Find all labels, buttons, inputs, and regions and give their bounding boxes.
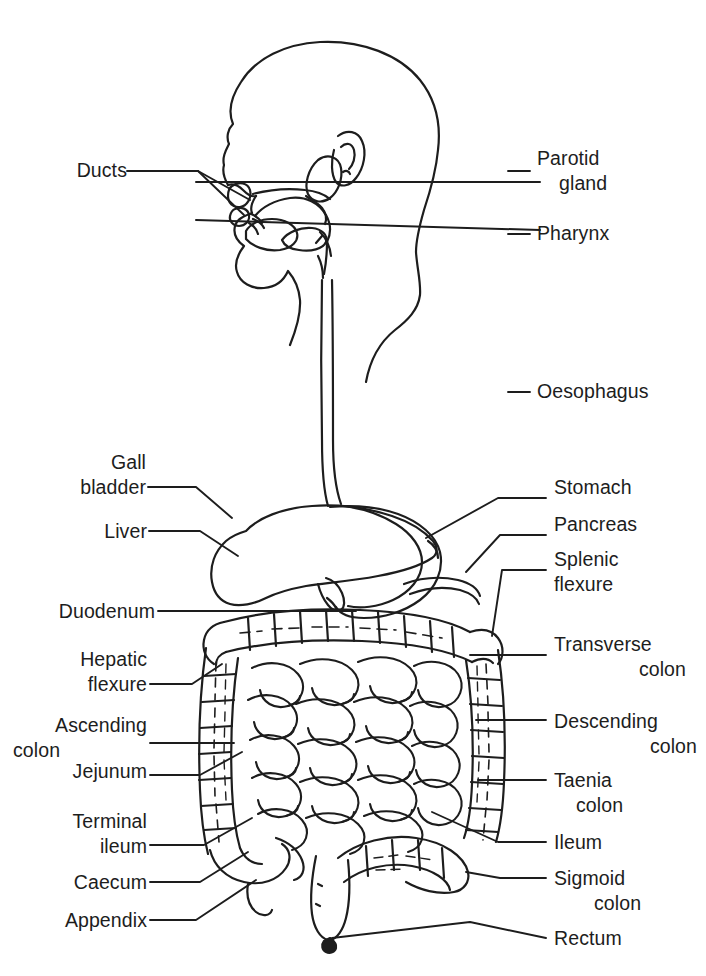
- label-rectum[interactable]: Rectum: [554, 926, 706, 951]
- label-caecum[interactable]: Caecum: [0, 870, 147, 895]
- label-oesophagus[interactable]: Oesophagus: [537, 379, 702, 404]
- label-liver-line1: Liver: [104, 520, 147, 542]
- label-ducts-line1: Ducts: [77, 159, 127, 181]
- label-terminal-ileum[interactable]: Terminalileum: [0, 809, 147, 859]
- label-terminal-ileum-line1: Terminal: [73, 810, 148, 832]
- ascending-colon-shape: [199, 648, 240, 854]
- appendix-shape: [247, 884, 272, 915]
- label-taenia-colon-line2: colon: [554, 793, 706, 818]
- caecum-shape: [210, 844, 289, 883]
- small-intestine-coils: [248, 657, 462, 854]
- label-descending-colon[interactable]: Descendingcolon: [554, 709, 706, 759]
- label-transverse-colon-line2: colon: [554, 657, 706, 682]
- leader-hepatic-flexure: [150, 664, 222, 684]
- label-hepatic-flexure-line2: flexure: [88, 673, 147, 695]
- leader-ileum: [432, 812, 546, 842]
- digestive-system-figure: Ducts Gallbladder Liver Duodenum Hepatic…: [0, 0, 706, 976]
- leader-stomach: [426, 498, 546, 538]
- label-hepatic-flexure[interactable]: Hepaticflexure: [0, 647, 147, 697]
- label-splenic-flexure-line1: Splenic: [554, 547, 706, 572]
- transverse-colon-shape: [224, 610, 472, 663]
- label-appendix[interactable]: Appendix: [0, 908, 147, 933]
- leader-gall-bladder: [148, 487, 232, 518]
- label-pancreas[interactable]: Pancreas: [554, 512, 706, 537]
- rectum-shape: [311, 856, 349, 953]
- label-parotid-gland-line2: gland: [537, 171, 702, 196]
- descending-colon-shape: [464, 650, 505, 842]
- label-oesophagus-line1: Oesophagus: [537, 380, 649, 402]
- label-hepatic-flexure-line1: Hepatic: [80, 648, 147, 670]
- label-ascending-colon[interactable]: Ascendingcolon: [0, 713, 147, 763]
- label-ducts[interactable]: Ducts: [0, 158, 127, 183]
- label-transverse-colon-line1: Transverse: [554, 632, 706, 657]
- label-transverse-colon[interactable]: Transversecolon: [554, 632, 706, 682]
- label-liver[interactable]: Liver: [0, 519, 147, 544]
- label-gall-bladder[interactable]: Gallbladder: [0, 450, 146, 500]
- label-pharynx[interactable]: Pharynx: [537, 221, 702, 246]
- label-descending-colon-line2: colon: [554, 734, 706, 759]
- label-jejunum[interactable]: Jejunum: [0, 759, 147, 784]
- label-duodenum-line1: Duodenum: [59, 600, 155, 622]
- leader-lines-right: [332, 171, 546, 938]
- label-stomach-line1: Stomach: [554, 476, 632, 498]
- label-rectum-line1: Rectum: [554, 927, 622, 949]
- label-descending-colon-line1: Descending: [554, 709, 706, 734]
- hepatic-flexure-shape: [203, 622, 226, 665]
- label-caecum-line1: Caecum: [74, 871, 147, 893]
- bottom-cropped-caption: [0, 963, 706, 976]
- label-splenic-flexure[interactable]: Splenicflexure: [554, 547, 706, 597]
- label-sigmoid-colon-line2: colon: [554, 891, 706, 916]
- leader-sigmoid-colon: [466, 872, 546, 878]
- label-duodenum[interactable]: Duodenum: [0, 599, 155, 624]
- label-gall-bladder-line1: Gall: [111, 451, 146, 473]
- label-ileum-line1: Ileum: [554, 831, 602, 853]
- label-pancreas-line1: Pancreas: [554, 513, 637, 535]
- label-ascending-colon-line1: Ascending: [13, 713, 147, 738]
- head-profile-outline: [223, 42, 439, 382]
- label-gall-bladder-line2: bladder: [80, 476, 146, 498]
- label-parotid-gland-line1: Parotid: [537, 146, 702, 171]
- label-sigmoid-colon-line1: Sigmoid: [554, 866, 706, 891]
- label-terminal-ileum-line2: ileum: [100, 835, 147, 857]
- leader-appendix: [150, 880, 256, 920]
- label-appendix-line1: Appendix: [65, 909, 147, 931]
- label-taenia-colon[interactable]: Taeniacolon: [554, 768, 706, 818]
- label-pharynx-line1: Pharynx: [537, 222, 609, 244]
- label-sigmoid-colon[interactable]: Sigmoidcolon: [554, 866, 706, 916]
- label-taenia-colon-line1: Taenia: [554, 768, 706, 793]
- sigmoid-colon-shape: [338, 837, 468, 893]
- label-parotid-gland[interactable]: Parotidgland: [537, 146, 702, 196]
- oesophagus-shape: [321, 280, 341, 506]
- leader-pancreas: [466, 535, 546, 572]
- leader-splenic-flexure: [492, 570, 546, 636]
- leader-rectum: [332, 922, 546, 938]
- label-stomach[interactable]: Stomach: [554, 475, 706, 500]
- label-ileum[interactable]: Ileum: [554, 830, 706, 855]
- label-splenic-flexure-line2: flexure: [554, 572, 706, 597]
- label-jejunum-line1: Jejunum: [73, 760, 147, 782]
- leader-jejunum: [150, 752, 242, 775]
- splenic-flexure-shape: [470, 630, 503, 664]
